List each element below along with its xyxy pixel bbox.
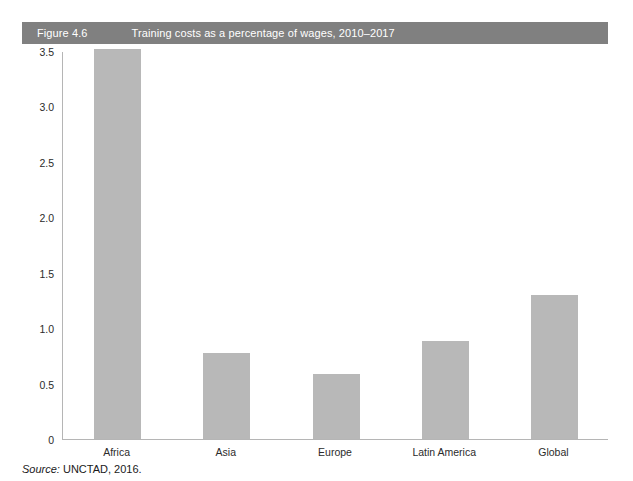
bar-chart: 00.51.01.52.02.53.03.5 AfricaAsiaEuropeL… — [0, 0, 633, 481]
bars-container — [63, 52, 608, 439]
y-tick-label: 0.5 — [39, 379, 54, 391]
x-tick-label: Latin America — [412, 446, 476, 458]
y-tick-label: 1.0 — [39, 323, 54, 335]
plot-area — [62, 52, 608, 440]
bar-asia — [203, 353, 250, 439]
x-axis: AfricaAsiaEuropeLatin AmericaGlobal — [62, 446, 608, 462]
x-tick-label: Europe — [318, 446, 352, 458]
bar-latin-america — [422, 341, 469, 439]
bar-africa — [94, 49, 141, 439]
bar-global — [531, 295, 578, 439]
source-note: Source: UNCTAD, 2016. — [22, 463, 142, 475]
y-tick-label: 0 — [48, 434, 54, 446]
y-tick-label: 3.0 — [39, 101, 54, 113]
bar-europe — [313, 374, 360, 439]
y-tick-label: 2.0 — [39, 212, 54, 224]
source-label: Source: — [22, 463, 60, 475]
x-tick-label: Asia — [216, 446, 236, 458]
y-tick-label: 1.5 — [39, 268, 54, 280]
x-tick-label: Global — [538, 446, 568, 458]
source-text: UNCTAD, 2016. — [60, 463, 142, 475]
y-tick-label: 3.5 — [39, 46, 54, 58]
x-tick-label: Africa — [103, 446, 130, 458]
y-tick-label: 2.5 — [39, 157, 54, 169]
y-axis: 00.51.01.52.02.53.03.5 — [20, 52, 54, 440]
